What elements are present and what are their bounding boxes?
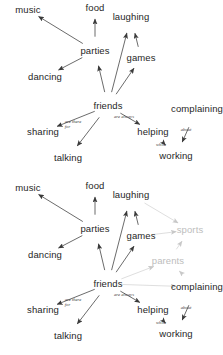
edge-parents-to-sports xyxy=(176,241,182,249)
node-laughing[interactable]: laughing xyxy=(113,190,150,200)
node-dancing[interactable]: dancing xyxy=(28,72,62,82)
node-working[interactable]: working xyxy=(159,329,192,339)
node-friends[interactable]: friends xyxy=(93,279,122,289)
concept-map-canvas: musicfoodlaughingpartiesgamesdancingfrie… xyxy=(0,0,223,355)
edge-friends-to-complaining xyxy=(122,284,176,286)
node-music[interactable]: music xyxy=(15,5,40,15)
node-helping[interactable]: helping xyxy=(137,305,168,315)
edge-friends-to-games xyxy=(116,68,134,94)
node-talking[interactable]: talking xyxy=(54,331,82,341)
edge-label-are-there-for: are therefor xyxy=(65,119,81,130)
edge-friends-to-parties xyxy=(99,244,105,270)
edge-parties-to-music xyxy=(39,195,83,222)
node-talking[interactable]: talking xyxy=(54,153,82,163)
node-parties[interactable]: parties xyxy=(80,46,109,56)
node-food[interactable]: food xyxy=(86,3,105,13)
node-parties[interactable]: parties xyxy=(80,224,109,234)
node-dancing[interactable]: dancing xyxy=(28,250,62,260)
node-games[interactable]: games xyxy=(126,231,155,241)
edge-parties-to-dancing xyxy=(59,236,83,248)
edge-friends-to-laughing xyxy=(112,211,127,270)
node-friends[interactable]: friends xyxy=(93,101,122,111)
edge-label-are-always: are always xyxy=(114,115,134,120)
node-complaining[interactable]: complaining xyxy=(171,104,223,114)
edge-friends-to-parties xyxy=(99,66,105,92)
edge-label-about: about xyxy=(181,306,191,311)
node-games[interactable]: games xyxy=(126,53,155,63)
edge-label-are-always: are always xyxy=(114,293,134,298)
edge-label-while: while xyxy=(156,143,166,148)
base-concept-map-panel: musicfoodlaughingpartiesgamesdancingfrie… xyxy=(0,0,223,177)
edge-label-are-there-for: are therefor xyxy=(65,297,81,308)
extended-concept-map-panel: musicfoodlaughingpartiesgamesdancingspor… xyxy=(0,178,223,355)
node-working[interactable]: working xyxy=(159,151,192,161)
edge-games-to-laughing xyxy=(135,211,138,225)
edge-games-to-sports xyxy=(152,232,176,235)
node-parents[interactable]: parents xyxy=(152,256,184,266)
edge-friends-to-parents xyxy=(121,266,153,278)
edge-complaining-to-parents xyxy=(179,271,182,273)
edge-label-about: about xyxy=(181,128,191,133)
node-complaining[interactable]: complaining xyxy=(171,282,223,292)
node-sharing[interactable]: sharing xyxy=(27,127,59,137)
node-food[interactable]: food xyxy=(86,181,105,191)
edge-games-to-laughing xyxy=(135,33,138,47)
edge-parties-to-music xyxy=(39,17,83,44)
edge-friends-to-laughing xyxy=(112,33,127,92)
node-sharing[interactable]: sharing xyxy=(27,305,59,315)
edge-friends-to-games xyxy=(116,246,134,272)
edge-parties-to-dancing xyxy=(59,58,83,70)
node-helping[interactable]: helping xyxy=(137,127,168,137)
edge-laughing-to-sports xyxy=(145,203,179,223)
node-music[interactable]: music xyxy=(15,183,40,193)
node-sports[interactable]: sports xyxy=(177,225,203,235)
edge-label-while: while xyxy=(156,321,166,326)
node-laughing[interactable]: laughing xyxy=(113,12,150,22)
